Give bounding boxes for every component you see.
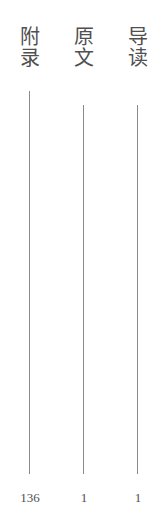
column-count: 136 [10,490,50,506]
title-char: 读 [118,48,158,69]
title-char: 原 [64,27,104,48]
column-divider-line [137,105,138,474]
title-char: 录 [10,48,50,69]
column-appendix[interactable]: 附 录 136 [10,0,50,529]
column-divider-line [29,91,30,474]
column-divider-line [83,105,84,474]
title-char: 导 [118,27,158,48]
title-char: 文 [64,48,104,69]
column-title: 原 文 [64,27,104,69]
column-count: 1 [64,490,104,506]
column-title: 导 读 [118,27,158,69]
column-original-text[interactable]: 原 文 1 [64,0,104,529]
column-count: 1 [118,490,158,506]
column-guide[interactable]: 导 读 1 [118,0,158,529]
column-title: 附 录 [10,27,50,69]
title-char: 附 [10,27,50,48]
